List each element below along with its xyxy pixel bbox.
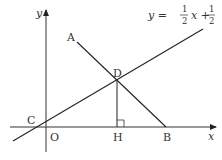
point-a-label: A: [66, 31, 76, 44]
line-ab: [77, 42, 166, 127]
x-axis-label: x: [208, 130, 215, 143]
svg-text:2: 2: [182, 16, 187, 26]
svg-text:1: 1: [182, 4, 187, 14]
svg-text:1: 1: [209, 4, 214, 14]
y-axis-label: y: [35, 7, 43, 20]
coordinate-diagram: y x O A B C D H y = 1 2 x + 1 2: [0, 0, 222, 160]
point-d-label: D: [113, 67, 122, 80]
svg-text:y =: y =: [147, 9, 167, 22]
svg-text:x +: x +: [191, 9, 210, 22]
point-c-label: C: [27, 114, 35, 127]
origin-label: O: [50, 131, 59, 144]
point-b-label: B: [163, 131, 171, 144]
point-h-label: H: [113, 131, 123, 144]
right-angle-mark: [117, 120, 124, 127]
line-cd: [13, 29, 203, 141]
svg-text:2: 2: [209, 16, 214, 26]
line-equation-label: y = 1 2 x + 1 2: [147, 4, 215, 26]
